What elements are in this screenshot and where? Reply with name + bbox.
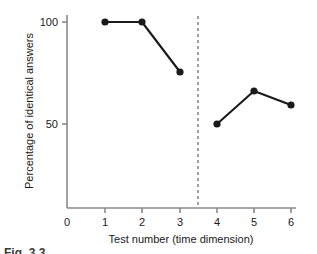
data-point-marker	[250, 87, 257, 94]
x-tick-label-4: 4	[214, 216, 220, 228]
x-tick-label-3: 3	[177, 216, 183, 228]
y-tick-label-50: 50	[46, 118, 58, 130]
data-point-marker	[101, 18, 108, 25]
y-tick-label-100: 100	[40, 16, 58, 28]
series-line-after-divider	[217, 91, 291, 124]
data-point-marker	[138, 18, 145, 25]
x-tick-label-0: 0	[64, 216, 70, 228]
data-point-marker	[176, 68, 183, 75]
series-line-before-divider	[105, 22, 180, 72]
x-axis-title: Test number (time dimension)	[109, 233, 254, 245]
x-tick-label-2: 2	[139, 216, 145, 228]
data-point-marker	[287, 101, 294, 108]
y-axis-title: Percentage of identical answers	[23, 33, 35, 189]
data-point-marker	[213, 120, 220, 127]
x-tick-label-5: 5	[251, 216, 257, 228]
figure-caption-clipped: Fig. 3.3	[4, 247, 45, 254]
figure-container: 100 50 0 1 2 3 4 5 6 Test number (time d…	[0, 0, 317, 254]
line-chart: 100 50 0 1 2 3 4 5 6 Test number (time d…	[0, 0, 317, 254]
x-tick-label-1: 1	[102, 216, 108, 228]
x-tick-label-6: 6	[288, 216, 294, 228]
